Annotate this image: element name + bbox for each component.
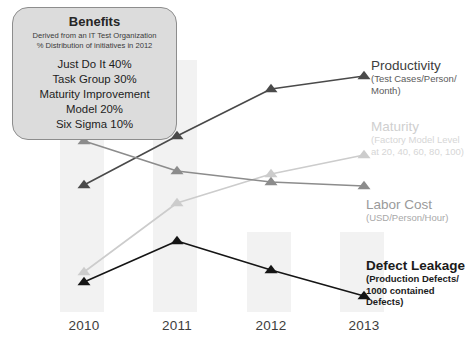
series-units-defect-leakage-line3: Defects) bbox=[366, 297, 465, 308]
series-label-productivity: Productivity (Test Cases/Person/ Month) bbox=[371, 58, 457, 96]
series-title-maturity: Maturity bbox=[371, 119, 464, 134]
series-title-defect-leakage: Defect Leakage bbox=[366, 258, 465, 273]
series-units-labor-cost-line1: (USD/Person/Hour) bbox=[366, 213, 448, 224]
benefits-item: Task Group 30% bbox=[19, 72, 170, 87]
series-label-labor-cost: Labor Cost (USD/Person/Hour) bbox=[366, 197, 448, 224]
series-units-productivity-line2: Month) bbox=[371, 86, 457, 97]
benefits-item: Maturity Improvement bbox=[19, 87, 170, 102]
benefits-subtitle-line1: Derived from an IT Test Organization bbox=[19, 31, 170, 41]
series-units-maturity-line2: at 20, 40, 60, 80, 100) bbox=[371, 147, 464, 158]
line-maturity bbox=[84, 155, 364, 272]
marker-productivity-2013 bbox=[358, 71, 371, 80]
x-axis-label-2011: 2011 bbox=[142, 318, 212, 333]
x-axis-label-2013: 2013 bbox=[329, 318, 399, 333]
series-units-defect-leakage-line2: 1000 contained bbox=[366, 286, 465, 297]
benefits-item: Six Sigma 10% bbox=[19, 117, 170, 132]
x-axis-label-2010: 2010 bbox=[49, 318, 119, 333]
x-axis-label-2012: 2012 bbox=[236, 318, 306, 333]
line-defect-leakage bbox=[84, 241, 364, 296]
chart-canvas: 2010 2011 2012 2013 Productivity (Test C… bbox=[0, 0, 465, 348]
benefits-list: Just Do It 40% Task Group 30% Maturity I… bbox=[19, 57, 170, 132]
benefits-title: Benefits bbox=[19, 14, 170, 29]
benefits-item: Model 20% bbox=[19, 102, 170, 117]
benefits-item: Just Do It 40% bbox=[19, 57, 170, 72]
series-label-defect-leakage: Defect Leakage (Production Defects/ 1000… bbox=[366, 258, 465, 308]
series-units-maturity-line1: (Factory Model Level bbox=[371, 135, 464, 146]
marker-labor-cost-2013 bbox=[358, 181, 371, 190]
series-title-labor-cost: Labor Cost bbox=[366, 197, 448, 212]
series-units-defect-leakage-line1: (Production Defects/ bbox=[366, 274, 465, 285]
series-label-maturity: Maturity (Factory Model Level at 20, 40,… bbox=[371, 119, 464, 157]
series-units-productivity-line1: (Test Cases/Person/ bbox=[371, 74, 457, 85]
marker-maturity-2013 bbox=[358, 150, 371, 159]
benefits-subtitle-line2: % Distribution of initiatives in 2012 bbox=[19, 41, 170, 51]
series-title-productivity: Productivity bbox=[371, 58, 457, 73]
benefits-callout: Benefits Derived from an IT Test Organiz… bbox=[12, 7, 177, 140]
